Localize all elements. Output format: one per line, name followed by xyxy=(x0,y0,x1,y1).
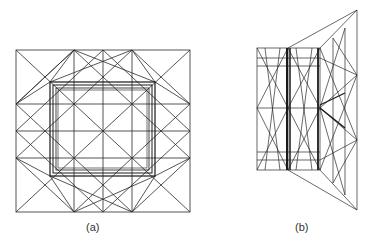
figure-a-lattice xyxy=(16,50,190,212)
caption-a: (a) xyxy=(86,221,99,233)
caption-b: (b) xyxy=(295,221,308,233)
figure-canvas xyxy=(0,0,368,245)
figure-b-lattice xyxy=(257,10,357,210)
